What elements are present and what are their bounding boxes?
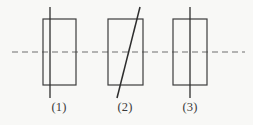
- panel-2-label: (2): [105, 100, 145, 114]
- panel-3-label: (3): [170, 100, 210, 114]
- panel-3: [173, 7, 207, 98]
- panel-1-label: (1): [39, 100, 79, 114]
- figure-container: (1) (2) (3): [0, 0, 253, 125]
